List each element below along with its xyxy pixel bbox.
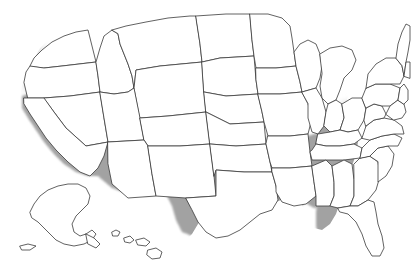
hawaii-big-island	[147, 248, 162, 259]
state-minnesota	[250, 14, 296, 68]
state-missouri	[258, 92, 312, 136]
state-outlines-layer	[24, 14, 410, 256]
state-south-dakota	[202, 56, 258, 96]
hawaii-oahu	[124, 236, 134, 243]
state-arkansas	[266, 134, 312, 168]
state-new-mexico	[148, 144, 216, 198]
hawaii-molokai-maui	[136, 238, 150, 246]
state-florida	[338, 200, 384, 256]
state-tennessee	[310, 144, 362, 160]
hawaii-inset	[112, 230, 162, 259]
alaska-inset	[20, 184, 100, 250]
hawaii-kauai	[112, 230, 120, 236]
state-alabama	[330, 160, 354, 208]
state-michigan	[320, 46, 356, 104]
state-north-dakota	[196, 14, 254, 62]
alaska-aleutians	[20, 244, 36, 250]
state-ohio	[340, 98, 366, 132]
alaska-outline	[30, 184, 96, 246]
state-colorado	[140, 112, 210, 146]
state-iowa	[256, 66, 302, 94]
state-new-york	[366, 58, 404, 88]
state-wyoming	[134, 62, 206, 118]
distribution-map: United States Distribution Range Map Uni…	[0, 0, 412, 263]
state-new-jersey	[398, 84, 408, 104]
state-georgia	[350, 156, 380, 206]
state-oregon	[24, 62, 100, 98]
us-map-svg	[0, 0, 412, 263]
